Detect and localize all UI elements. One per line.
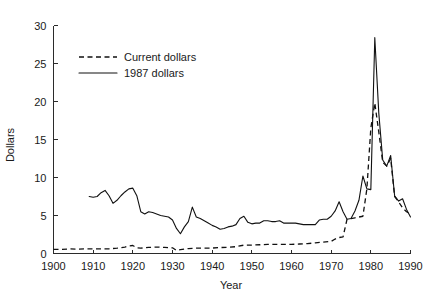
x-tick-label: 1910 xyxy=(81,260,105,272)
y-tick-label: 25 xyxy=(34,58,46,70)
x-tick-label: 1900 xyxy=(41,260,65,272)
y-axis-tick-labels: 051015202530 xyxy=(34,20,46,260)
line-chart: 051015202530 190019101920193019401950196… xyxy=(0,0,429,298)
y-tick-label: 10 xyxy=(34,172,46,184)
y-tick-label: 5 xyxy=(40,210,46,222)
y-tick-label: 20 xyxy=(34,96,46,108)
x-tick-label: 1930 xyxy=(160,260,184,272)
x-tick-label: 1960 xyxy=(279,260,303,272)
x-tick-label: 1950 xyxy=(240,260,264,272)
y-tick-label: 30 xyxy=(34,20,46,32)
series-line-current-dollars xyxy=(54,103,411,250)
y-tick-label: 0 xyxy=(40,248,46,260)
x-axis-title: Year xyxy=(220,279,243,291)
x-tick-label: 1970 xyxy=(319,260,343,272)
x-tick-label: 1980 xyxy=(359,260,383,272)
y-tick-label: 15 xyxy=(34,134,46,146)
x-tick-label: 1990 xyxy=(398,260,422,272)
x-tick-label: 1920 xyxy=(121,260,145,272)
y-axis-title: Dollars xyxy=(4,127,16,162)
chart-legend: Current dollars 1987 dollars xyxy=(79,51,197,79)
y-axis-ticks xyxy=(54,26,58,254)
legend-item-1987-dollars: 1987 dollars xyxy=(79,67,184,79)
x-axis-tick-labels: 1900191019201930194019501960197019801990 xyxy=(41,260,422,272)
plot-frame xyxy=(54,26,411,254)
legend-item-current-dollars: Current dollars xyxy=(79,51,197,63)
chart-figure: 051015202530 190019101920193019401950196… xyxy=(0,0,429,298)
x-axis-ticks xyxy=(54,250,411,254)
legend-label-current-dollars: Current dollars xyxy=(124,51,197,63)
series-group xyxy=(54,38,411,251)
x-tick-label: 1940 xyxy=(200,260,224,272)
legend-label-1987-dollars: 1987 dollars xyxy=(124,67,184,79)
